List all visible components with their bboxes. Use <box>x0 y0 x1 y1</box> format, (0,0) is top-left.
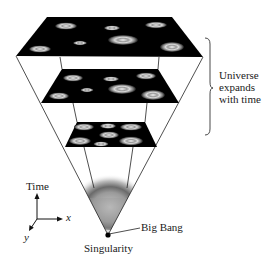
singularity-point <box>105 232 110 237</box>
axis-y-label: y <box>24 232 29 243</box>
singularity-label: Singularity <box>84 243 133 254</box>
axis-x-label: x <box>66 212 71 223</box>
label-line-2: expands <box>219 81 261 93</box>
universe-plane-earliest <box>65 122 157 147</box>
universe-expands-label: Universe expands with time <box>219 69 261 105</box>
axes-icon <box>29 193 63 231</box>
time-brace <box>205 38 213 135</box>
big-bang-leader-line <box>109 228 140 234</box>
big-bang-label: Big Bang <box>141 222 183 233</box>
universe-plane-middle <box>41 69 179 103</box>
universe-plane-latest <box>16 17 203 57</box>
label-line-1: Universe <box>219 69 261 81</box>
expanding-universe-diagram <box>0 0 273 264</box>
label-line-3: with time <box>219 93 261 105</box>
axis-time-label: Time <box>26 181 49 192</box>
